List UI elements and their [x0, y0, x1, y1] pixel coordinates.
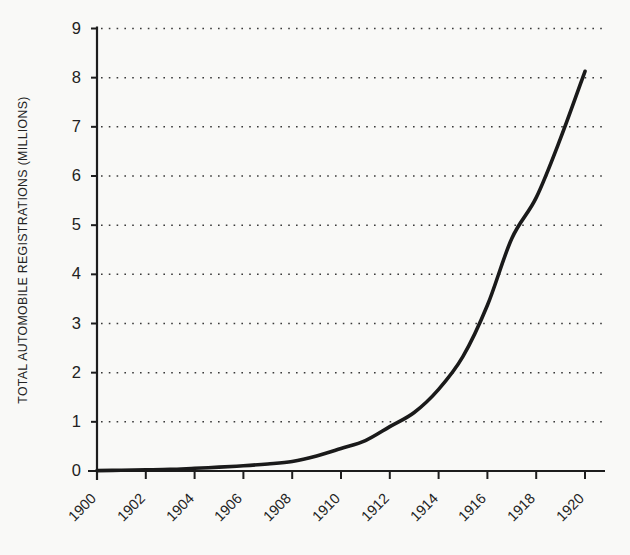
y-tick-label-7: 7 — [55, 117, 81, 136]
tick-marks-group — [91, 29, 585, 480]
y-tick-label-9: 9 — [55, 19, 81, 38]
y-tick-label-4: 4 — [55, 264, 81, 283]
chart-figure: TOTAL AUTOMOBILE REGISTRATIONS (MILLIONS… — [0, 0, 630, 555]
y-tick-label-0: 0 — [55, 461, 81, 480]
chart-plot-area — [0, 0, 630, 555]
axes-group — [88, 27, 605, 481]
data-series-line — [97, 71, 585, 470]
y-tick-label-3: 3 — [55, 314, 81, 333]
gridlines-group — [101, 29, 605, 422]
y-tick-label-6: 6 — [55, 166, 81, 185]
y-tick-label-8: 8 — [55, 68, 81, 87]
y-tick-label-2: 2 — [55, 363, 81, 382]
y-tick-label-5: 5 — [55, 215, 81, 234]
y-tick-label-1: 1 — [55, 412, 81, 431]
